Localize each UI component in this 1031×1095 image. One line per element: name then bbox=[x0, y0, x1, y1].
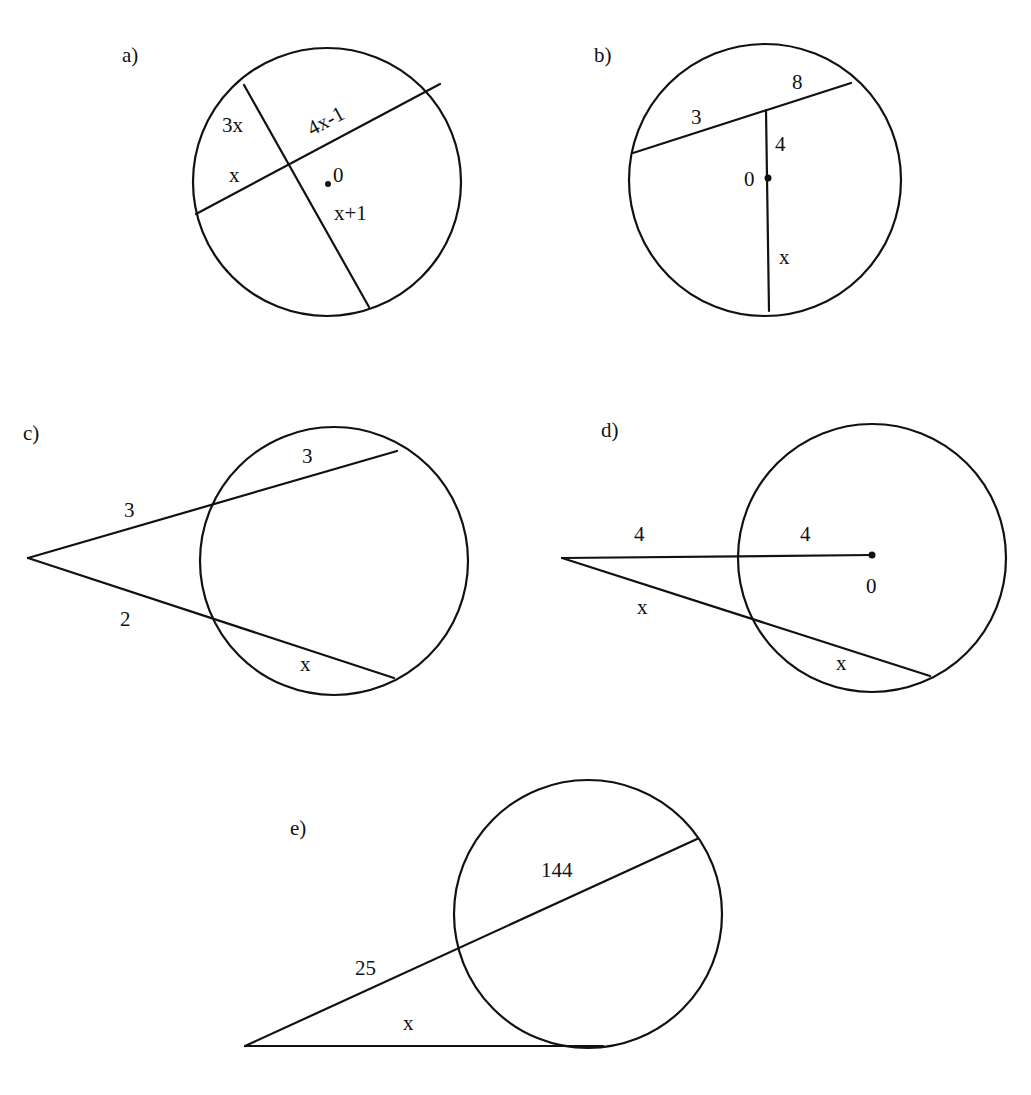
figure-d-label-lower-external: x bbox=[637, 595, 648, 619]
figure-b-circle bbox=[629, 44, 901, 316]
figure-c-label-lower-external: 2 bbox=[120, 607, 131, 631]
figure-d-label-upper-external: 4 bbox=[634, 522, 645, 546]
figure-e-label: e) bbox=[290, 816, 306, 840]
figure-a-label-x: x bbox=[229, 163, 240, 187]
figure-c-circle bbox=[200, 427, 468, 695]
figure-e-label-x: x bbox=[403, 1011, 414, 1035]
figure-d-center-label: 0 bbox=[866, 574, 877, 598]
figure-e: e) 144 25 x bbox=[245, 780, 722, 1048]
figure-c-label: c) bbox=[23, 421, 39, 445]
figure-c-label-upper-external: 3 bbox=[124, 498, 135, 522]
figure-d-line-through-center bbox=[562, 555, 872, 558]
figure-b-label-8: 8 bbox=[792, 70, 803, 94]
figure-b-label-3: 3 bbox=[691, 105, 702, 129]
figure-a-center-dot bbox=[325, 181, 331, 187]
figure-a-center-label: 0 bbox=[333, 163, 344, 187]
figure-e-secant bbox=[245, 839, 697, 1046]
figure-a-chord-1 bbox=[196, 84, 440, 214]
figure-c-label-lower-internal: x bbox=[300, 652, 311, 676]
figure-b-center-dot bbox=[765, 175, 772, 182]
figure-a-label-3x: 3x bbox=[222, 113, 244, 137]
secant-tangent-diagram: a) 0 3x x 4x-1 x+1 b) 0 3 8 4 x c) 3 3 2… bbox=[0, 0, 1031, 1095]
figure-d-label-lower-internal: x bbox=[836, 651, 847, 675]
figure-c-lower-secant bbox=[28, 558, 394, 678]
figure-e-label-144: 144 bbox=[541, 858, 573, 882]
figure-b-chord bbox=[633, 83, 851, 153]
figure-c-label-upper-internal: 3 bbox=[302, 444, 313, 468]
figure-d-center-dot bbox=[869, 552, 876, 559]
figure-b-diameter-segment bbox=[766, 110, 769, 311]
figure-e-circle bbox=[454, 780, 722, 1048]
figure-b-center-label: 0 bbox=[744, 167, 755, 191]
figure-b: b) 0 3 8 4 x bbox=[594, 43, 901, 316]
figure-b-label-x: x bbox=[779, 245, 790, 269]
figure-d-label-upper-internal: 4 bbox=[800, 522, 811, 546]
figure-a-label-x-plus-1: x+1 bbox=[334, 201, 367, 225]
figure-b-label-4: 4 bbox=[775, 132, 786, 156]
figure-b-label: b) bbox=[594, 43, 612, 67]
figure-c: c) 3 3 2 x bbox=[23, 421, 468, 695]
figure-d: d) 0 4 4 x x bbox=[562, 418, 1006, 692]
figure-e-label-25: 25 bbox=[355, 956, 376, 980]
figure-d-label: d) bbox=[601, 418, 619, 442]
figure-c-upper-secant bbox=[28, 451, 397, 558]
figure-a: a) 0 3x x 4x-1 x+1 bbox=[122, 43, 461, 316]
figure-a-label: a) bbox=[122, 43, 138, 67]
figure-a-label-4x-1: 4x-1 bbox=[303, 101, 348, 140]
